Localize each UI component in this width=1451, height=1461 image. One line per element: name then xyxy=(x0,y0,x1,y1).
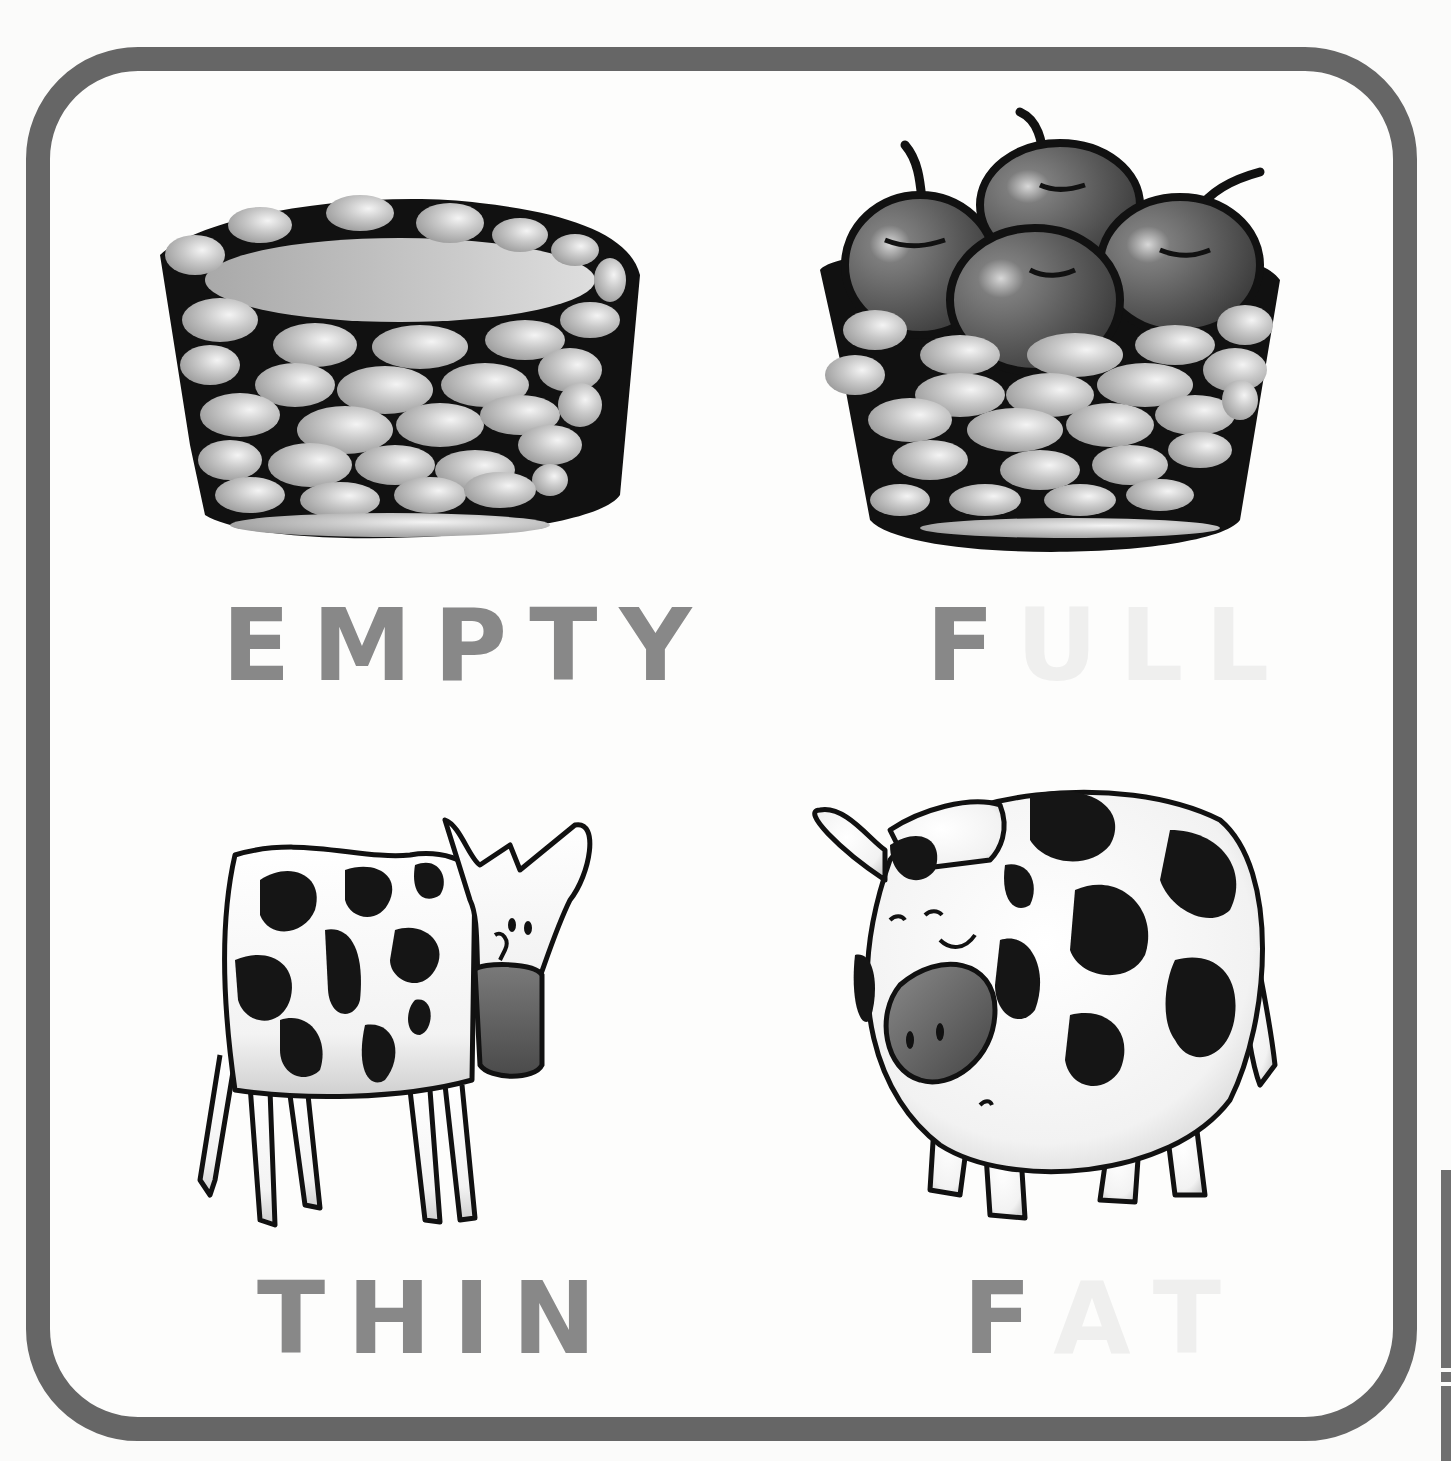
word-full: FULL xyxy=(926,596,1291,696)
letter: F xyxy=(963,1269,1053,1369)
empty-basket-illustration xyxy=(150,195,650,565)
letter: T xyxy=(529,596,619,696)
letter: E xyxy=(222,596,312,696)
letter: M xyxy=(312,596,434,696)
page-edge-tab xyxy=(1441,1170,1451,1368)
letter-faint: L xyxy=(1120,596,1206,696)
thin-cow-illustration xyxy=(180,800,630,1230)
word-fat: FAT xyxy=(963,1269,1243,1369)
letter: Y xyxy=(619,596,713,696)
word-empty: EMPTY xyxy=(222,596,714,696)
page-edge-tab xyxy=(1441,1372,1451,1382)
letter: H xyxy=(347,1269,453,1369)
letter: N xyxy=(512,1269,618,1369)
letter-faint: A xyxy=(1053,1269,1152,1369)
letter-faint: U xyxy=(1016,596,1119,696)
letter: F xyxy=(926,596,1016,696)
letter: P xyxy=(434,596,529,696)
fat-cow-illustration xyxy=(790,770,1320,1240)
page-edge-tab xyxy=(1441,1386,1451,1461)
basket-of-apples-illustration xyxy=(800,100,1300,570)
letter: I xyxy=(453,1269,512,1369)
word-thin: THIN xyxy=(257,1269,618,1369)
letter: T xyxy=(257,1269,347,1369)
letter-faint: L xyxy=(1205,596,1291,696)
letter-faint: T xyxy=(1153,1269,1243,1369)
